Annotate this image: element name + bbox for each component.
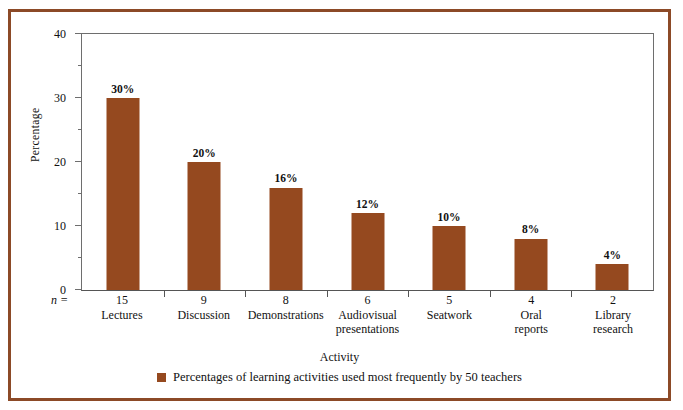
x-axis-n-value: 6 — [327, 293, 409, 308]
n-marker-label: n = — [51, 293, 68, 308]
bar[interactable] — [269, 188, 302, 290]
bar-slot: 8% — [490, 34, 572, 290]
legend-label: Percentages of learning activities used … — [173, 370, 522, 385]
bar-value-label: 16% — [274, 173, 297, 185]
y-tick-major: 40 — [75, 33, 82, 34]
bar[interactable] — [106, 98, 139, 290]
bar-slot: 12% — [327, 34, 409, 290]
figure-frame: Percentage 30%20%16%12%10%8%4% 010203040… — [8, 9, 671, 401]
bar-value-label: 12% — [356, 199, 379, 211]
bar-value-label: 10% — [438, 212, 461, 224]
bar[interactable] — [433, 226, 466, 290]
y-tick-minor — [78, 65, 82, 66]
bar[interactable] — [188, 162, 221, 290]
bar[interactable] — [514, 239, 547, 290]
bar-slot: 10% — [408, 34, 490, 290]
x-axis-category-label: Demonstrations — [245, 308, 327, 322]
bar-value-label: 20% — [193, 148, 216, 160]
x-axis-category: 4Oralreports — [490, 293, 572, 336]
y-axis-title: Percentage — [29, 108, 41, 162]
y-tick-major: 20 — [75, 161, 82, 162]
x-axis-category-label: presentations — [327, 322, 409, 336]
bar-slot: 4% — [571, 34, 653, 290]
x-axis-category: 8Demonstrations — [245, 293, 327, 336]
x-axis-n-value: 8 — [245, 293, 327, 308]
y-tick-minor — [78, 257, 82, 258]
legend: Percentages of learning activities used … — [11, 370, 668, 385]
x-axis-n-value: 4 — [490, 293, 572, 308]
x-axis-category: 5Seatwork — [408, 293, 490, 336]
x-axis-category: 6Audiovisualpresentations — [327, 293, 409, 336]
y-tick-major: 10 — [75, 225, 82, 226]
x-axis-category-label: research — [572, 322, 654, 336]
bar-slot: 30% — [82, 34, 164, 290]
page-bleed-strip — [0, 0, 683, 9]
x-axis-n-value: 15 — [81, 293, 163, 308]
bar-value-label: 30% — [111, 84, 134, 96]
x-axis-labels: 15Lectures9Discussion8Demonstrations6Aud… — [81, 293, 654, 336]
x-axis-category: 2Libraryresearch — [572, 293, 654, 336]
y-tick-label: 30 — [54, 91, 66, 106]
x-axis-category-label: Lectures — [81, 308, 163, 322]
x-axis-category-label: Oral — [490, 308, 572, 322]
y-tick-label: 20 — [54, 155, 66, 170]
y-tick-label: 40 — [54, 27, 66, 42]
x-axis-category-label: Library — [572, 308, 654, 322]
bar-value-label: 8% — [522, 224, 539, 236]
bar[interactable] — [596, 264, 629, 290]
y-tick-minor — [78, 129, 82, 130]
x-axis-title: Activity — [11, 350, 668, 365]
bar-slot: 16% — [245, 34, 327, 290]
x-axis-category: 15Lectures — [81, 293, 163, 336]
bars-container: 30%20%16%12%10%8%4% — [82, 34, 653, 290]
x-axis-category-label: Seatwork — [408, 308, 490, 322]
x-axis-category: 9Discussion — [163, 293, 245, 336]
x-axis-category-label: reports — [490, 322, 572, 336]
y-tick-minor — [78, 193, 82, 194]
x-axis-n-value: 5 — [408, 293, 490, 308]
bar-value-label: 4% — [604, 250, 621, 262]
y-tick-major: 30 — [75, 97, 82, 98]
y-tick-major: 0 — [75, 289, 82, 290]
bar-slot: 20% — [164, 34, 246, 290]
plot-area: 30%20%16%12%10%8%4% 010203040 — [81, 33, 654, 291]
x-axis-category-label: Audiovisual — [327, 308, 409, 322]
bar[interactable] — [351, 213, 384, 290]
y-tick-label: 10 — [54, 219, 66, 234]
square-marker-icon — [157, 373, 166, 382]
x-axis-category-label: Discussion — [163, 308, 245, 322]
x-axis-n-value: 9 — [163, 293, 245, 308]
x-axis-n-value: 2 — [572, 293, 654, 308]
